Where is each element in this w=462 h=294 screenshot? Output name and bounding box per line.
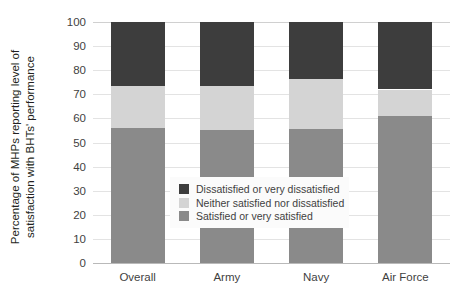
y-axis-title-line-1: Percentage of MHPs reporting level of — [8, 50, 23, 244]
bar-segment — [200, 86, 254, 131]
y-axis-tick-label: 30 — [73, 185, 86, 197]
y-axis-tick-label: 50 — [73, 137, 86, 149]
legend-label: Satisfied or very satisfied — [196, 210, 313, 222]
legend-label: Neither satisfied nor dissatisfied — [196, 197, 344, 209]
y-axis-tick-label: 20 — [73, 209, 86, 221]
legend-swatch-icon — [179, 198, 189, 208]
legend-item[interactable]: Satisfied or very satisfied — [179, 210, 341, 222]
bar-segment — [111, 128, 165, 263]
bar-segment — [200, 22, 254, 86]
y-axis-tick-label: 60 — [73, 112, 86, 124]
bar-segment — [111, 22, 165, 86]
bar-segment — [378, 116, 432, 263]
bar-segment — [378, 22, 432, 89]
bar-segment — [111, 86, 165, 128]
bar-segment — [378, 90, 432, 117]
y-axis-tick-label: 90 — [73, 40, 86, 52]
y-axis-tick-label: 10 — [73, 233, 86, 245]
legend-item[interactable]: Neither satisfied nor dissatisfied — [179, 197, 341, 209]
gridline — [93, 263, 450, 264]
stacked-bar-chart: Percentage of MHPs reporting level of sa… — [0, 0, 462, 294]
y-axis-tick-label: 100 — [67, 16, 86, 28]
x-axis-category-label: Army — [213, 271, 240, 283]
legend-swatch-icon — [179, 211, 189, 221]
y-axis-title-line-2: satisfaction with BHTs' performance — [23, 50, 38, 244]
legend-label: Dissatisfied or very dissatisfied — [196, 183, 340, 195]
y-axis-tick-label: 70 — [73, 88, 86, 100]
x-axis-category-label: Navy — [303, 271, 329, 283]
legend-item[interactable]: Dissatisfied or very dissatisfied — [179, 183, 341, 195]
x-axis-category-label: Overall — [119, 271, 155, 283]
y-axis-tick-label: 0 — [80, 257, 86, 269]
legend-swatch-icon — [179, 184, 189, 194]
bar-segment — [289, 79, 343, 130]
y-axis-tick-label: 80 — [73, 64, 86, 76]
y-axis-tick-label: 40 — [73, 161, 86, 173]
y-axis-title: Percentage of MHPs reporting level of sa… — [0, 0, 46, 294]
x-axis-category-label: Air Force — [382, 271, 429, 283]
chart-legend: Dissatisfied or very dissatisfiedNeither… — [170, 177, 349, 228]
bar-group: Air Force — [378, 22, 432, 263]
bar-group: Overall — [111, 22, 165, 263]
bar-segment — [289, 22, 343, 79]
